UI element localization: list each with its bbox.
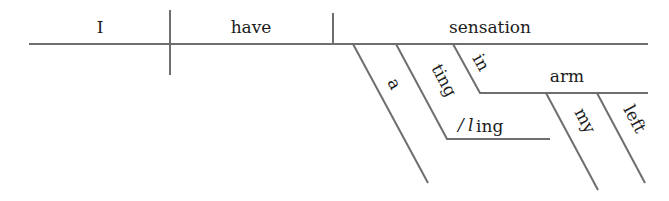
participle-word-slanted: ting (427, 60, 461, 100)
participle-word-horizontal: ing (476, 116, 503, 136)
participle-letter-l: l (468, 115, 473, 135)
article-word: a (383, 74, 405, 92)
verb-word: have (231, 17, 272, 37)
object-word: sensation (449, 17, 531, 37)
article-modifier-line (353, 44, 428, 183)
participle-break-l: / (456, 114, 466, 134)
preposition-word: in (468, 50, 493, 74)
subject-word: I (97, 17, 104, 37)
adjective-word: left (619, 101, 650, 136)
prep-object-word: arm (550, 66, 584, 86)
possessive-word: my (570, 104, 600, 136)
sentence-diagram: I have sensation a ting / l ing in arm m… (0, 0, 669, 201)
